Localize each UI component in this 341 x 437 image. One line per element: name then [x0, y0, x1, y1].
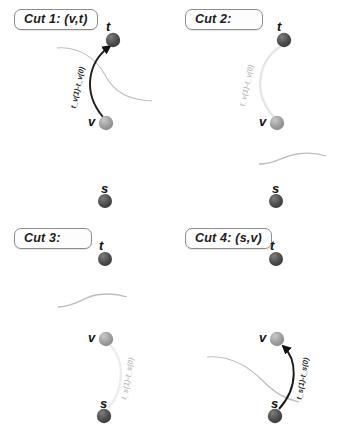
cut-4-label-t: t: [270, 239, 274, 252]
cut-2-edge-label: t_v(1)-t_v(0): [238, 63, 256, 107]
panel-cut-4: Cut 4: (s,v): [171, 219, 341, 437]
cut-3-graphics: t_s(1)-t_s(0): [0, 219, 170, 437]
cut-3-label-t: t: [99, 239, 103, 252]
cut-3-node-v: [99, 332, 113, 346]
cut-2-label-s: s: [272, 182, 279, 195]
cut-3-separator-curve: [58, 294, 127, 307]
cut-4-separator-curve: [207, 357, 299, 402]
panel-cut-3: Cut 3: t_s(1)-t_s(0: [0, 219, 170, 437]
cut-1-edge-label: t_v(1)-t_v(0): [69, 65, 87, 109]
cut-4-label-s: s: [271, 397, 278, 410]
cut-2-edge-v-t: [260, 46, 281, 117]
cut-1-label-s: s: [101, 182, 108, 195]
cut-1-node-s: [98, 194, 112, 208]
cut-4-node-v: [270, 332, 284, 346]
cut-4-node-t: [269, 252, 283, 266]
cut-2-separator-curve: [259, 153, 326, 164]
cut-2-graphics: t_v(1)-t_v(0): [171, 0, 341, 218]
cut-4-graphics: t_s(1)-t_s(0): [171, 219, 341, 437]
panel-cut-2: Cut 2: t_v(1)-t_v(0: [171, 0, 341, 218]
cut-4-edge-label: t_s(1)-t_s(0): [294, 356, 310, 400]
cut-3-node-t: [98, 252, 112, 266]
cut-2-label-v: v: [259, 115, 266, 128]
cut-2-label-t: t: [277, 20, 281, 33]
cut-2-node-v: [270, 116, 284, 130]
cut-4-label-v: v: [259, 331, 266, 344]
cut-1-node-v: [99, 116, 113, 130]
cut-diagram-figure: Cut 1: (v,t): [0, 0, 341, 437]
cut-1-label-v: v: [88, 115, 95, 128]
cut-1-label-t: t: [106, 20, 110, 33]
cut-3-label-s: s: [100, 397, 107, 410]
cut-1-node-t: [106, 33, 120, 47]
cut-3-label-v: v: [88, 331, 95, 344]
cut-1-graphics: t_v(1)-t_v(0): [0, 0, 170, 218]
cut-1-edge-v-t: [90, 46, 110, 117]
panel-cut-1: Cut 1: (v,t): [0, 0, 170, 218]
cut-2-node-t: [277, 33, 291, 47]
cut-2-node-s: [269, 194, 283, 208]
